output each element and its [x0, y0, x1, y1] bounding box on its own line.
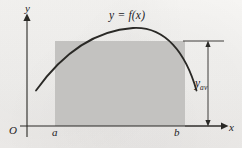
- lower-bound-label-a: a: [52, 127, 58, 138]
- dimension-arrowhead-up: [205, 41, 210, 48]
- x-axis-label: x: [229, 122, 234, 133]
- y-axis-arrowhead: [23, 14, 30, 22]
- figure-graphics: [0, 0, 242, 148]
- y-axis-label: y: [25, 3, 30, 14]
- average-value-rectangle: [55, 41, 185, 126]
- average-value-label-subscript: av: [200, 83, 207, 92]
- origin-label: O: [9, 125, 17, 136]
- figure-canvas: y x O a b y = f(x) yav: [0, 0, 242, 148]
- curve-equation-label: y = f(x): [109, 10, 145, 22]
- average-value-label: yav: [195, 78, 207, 92]
- upper-bound-label-b: b: [174, 127, 180, 138]
